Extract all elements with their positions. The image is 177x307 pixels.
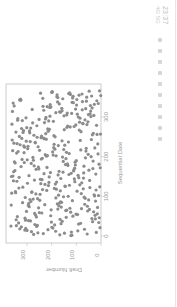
data-point — [48, 115, 51, 118]
data-point — [16, 215, 19, 218]
data-point — [79, 139, 82, 142]
data-point — [62, 148, 65, 151]
data-point — [52, 134, 55, 137]
data-point — [66, 162, 69, 165]
data-point — [26, 158, 29, 161]
data-point — [44, 153, 47, 156]
y-tick-label: 100 — [69, 249, 75, 260]
data-point — [82, 171, 85, 174]
data-point — [11, 110, 14, 113]
data-point — [75, 159, 78, 162]
data-point — [67, 140, 70, 143]
data-point — [30, 230, 33, 233]
data-point — [39, 182, 42, 185]
data-point — [21, 201, 24, 204]
data-point — [38, 149, 41, 152]
data-point — [14, 190, 17, 193]
data-point — [81, 108, 84, 111]
data-point — [94, 173, 97, 176]
data-point — [97, 163, 100, 166]
data-point — [22, 151, 25, 154]
data-point — [13, 104, 16, 107]
data-point — [62, 195, 65, 198]
data-point — [78, 128, 81, 131]
data-point — [70, 234, 73, 237]
data-point — [96, 206, 99, 209]
data-point — [50, 226, 53, 229]
data-point — [69, 211, 72, 214]
data-point — [41, 188, 44, 191]
data-point — [85, 147, 88, 150]
data-point — [79, 148, 82, 151]
data-point — [19, 165, 22, 168]
data-point — [35, 124, 38, 127]
data-point — [49, 171, 52, 174]
data-point — [46, 105, 49, 108]
data-point — [66, 125, 69, 128]
data-point — [12, 179, 15, 182]
x-tick-label: 100 — [103, 191, 109, 202]
data-point — [77, 115, 80, 118]
data-point — [64, 157, 67, 160]
data-point — [62, 160, 65, 163]
data-point — [20, 137, 23, 140]
data-point — [61, 155, 64, 158]
data-point — [40, 134, 43, 137]
data-point — [33, 212, 36, 215]
data-point — [41, 105, 44, 108]
data-point — [49, 214, 52, 217]
data-point — [33, 164, 36, 167]
data-point — [87, 169, 90, 172]
data-point — [61, 97, 64, 100]
data-point — [56, 173, 59, 176]
data-point — [44, 132, 47, 135]
data-point — [57, 144, 60, 147]
data-point — [84, 107, 87, 110]
data-point — [95, 99, 98, 102]
y-axis-title: Draft Number — [46, 267, 82, 273]
data-point — [71, 215, 74, 218]
data-point — [96, 142, 99, 145]
data-point — [83, 118, 86, 121]
data-point — [24, 227, 27, 230]
data-point — [20, 127, 23, 130]
status-bar — [153, 0, 177, 307]
data-point — [39, 178, 42, 181]
data-point — [35, 168, 38, 171]
data-point — [97, 102, 100, 105]
data-point — [43, 183, 46, 186]
data-point — [37, 206, 40, 209]
data-point — [32, 134, 35, 137]
data-point — [25, 126, 28, 129]
data-point — [80, 92, 83, 95]
data-point — [18, 176, 21, 179]
data-point — [71, 199, 74, 202]
data-point — [82, 176, 85, 179]
data-point — [96, 152, 99, 155]
data-point — [34, 192, 37, 195]
data-point — [29, 140, 32, 143]
data-point — [98, 226, 101, 229]
data-point — [32, 159, 35, 162]
data-point — [11, 149, 14, 152]
data-point — [37, 145, 40, 148]
data-point — [90, 155, 93, 158]
data-point — [37, 165, 40, 168]
data-point — [83, 228, 86, 231]
x-tick-label: 0 — [103, 234, 109, 238]
data-point — [50, 221, 53, 224]
data-point — [19, 98, 22, 101]
data-point — [60, 107, 63, 110]
data-point — [22, 144, 25, 147]
y-tick-label: 0 — [94, 253, 100, 257]
y-tick-label: 300 — [20, 249, 26, 260]
data-point — [17, 186, 20, 189]
app-icon — [158, 82, 162, 86]
status-divider — [175, 0, 176, 307]
data-point — [76, 113, 79, 116]
data-point — [38, 193, 41, 196]
data-point — [53, 143, 56, 146]
x-tick-label: 200 — [103, 151, 109, 162]
data-point — [86, 120, 89, 123]
data-point — [75, 98, 78, 101]
